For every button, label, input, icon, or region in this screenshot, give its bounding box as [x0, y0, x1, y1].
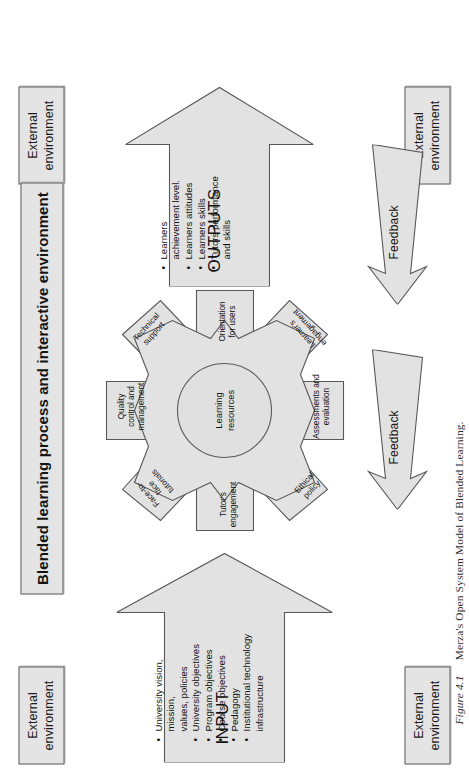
list-item: Tutors performance and skills: [208, 152, 233, 259]
external-environment-label: External environment: [411, 680, 442, 750]
list-item: Learners skills: [195, 152, 207, 259]
learning-resources-label: Learning resources: [212, 380, 236, 440]
outputs-bullet-list: Learners achievement level. Learners att…: [157, 152, 233, 270]
figure-caption: Figure 4.1 Merza's Open System Model of …: [452, 421, 464, 724]
figure-caption-text: Merza's Open System Model of Blended Lea…: [452, 421, 464, 660]
external-environment-box-bottom-left: External environment: [404, 666, 450, 764]
external-environment-label: External environment: [25, 680, 56, 750]
external-environment-label: External environment: [25, 100, 56, 170]
list-item: Program objectives: [202, 622, 214, 731]
external-environment-box-top-right: External environment: [18, 86, 64, 184]
list-item: University objectives: [189, 622, 201, 731]
external-environment-box-top-left: External environment: [18, 666, 64, 764]
figure-number: Figure 4.1: [452, 675, 464, 724]
list-item: Institutional technology infrastructure: [240, 622, 265, 731]
process-title-label: Blended learning process and interactive…: [33, 192, 50, 585]
list-item: Learners achievement level.: [157, 152, 182, 259]
list-item: Pedagogy: [228, 622, 240, 731]
list-item: Learners attitudes: [182, 152, 194, 259]
process-title-bar: Blended learning process and interactive…: [20, 182, 63, 594]
feedback-label-top: Feedback: [386, 410, 400, 464]
feedback-label-bottom: Feedback: [386, 205, 400, 259]
list-item: Course objectives: [215, 622, 227, 731]
figure-canvas: External environment External environmen…: [0, 0, 469, 784]
list-item: University vision, mission, values, poli…: [152, 622, 189, 731]
input-bullet-list: University vision, mission, values, poli…: [152, 622, 265, 742]
